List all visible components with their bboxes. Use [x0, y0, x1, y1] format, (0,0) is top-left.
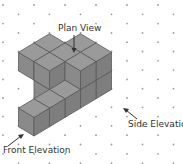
front-elevation-label: Front Elevation: [3, 146, 70, 155]
side-elevation-label: Side Elevation: [128, 120, 183, 129]
plan-view-label: Plan View: [58, 24, 101, 33]
cube-structure: [19, 34, 112, 136]
side-elevation-arrow-icon: [123, 108, 137, 119]
